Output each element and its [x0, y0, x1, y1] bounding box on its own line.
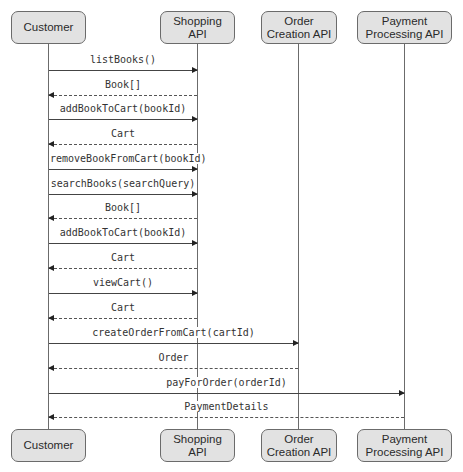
arrow-right-icon: [192, 240, 198, 246]
message-line: [49, 194, 197, 195]
message-label: Cart: [110, 302, 136, 313]
lifeline-payment: [404, 44, 405, 429]
message-line: [49, 393, 404, 394]
message-label: createOrderFromCart(cartId): [91, 327, 256, 338]
message-label: payForOrder(orderId): [165, 377, 287, 388]
arrow-left-icon: [48, 215, 54, 221]
message-line: [49, 368, 298, 369]
lifeline-shopping: [197, 44, 198, 429]
arrow-left-icon: [48, 141, 54, 147]
message-line: [49, 268, 197, 269]
arrow-left-icon: [48, 265, 54, 271]
message-line: [49, 343, 298, 344]
message-label: removeBookFromCart(bookId): [49, 153, 208, 164]
arrow-right-icon: [293, 340, 299, 346]
participant-shopping-top: Shopping API: [160, 11, 235, 44]
participant-shopping-bottom: Shopping API: [160, 429, 235, 462]
arrow-right-icon: [192, 191, 198, 197]
participant-order-bottom: Order Creation API: [261, 429, 337, 462]
lifeline-order: [298, 44, 299, 429]
message-line: [49, 293, 197, 294]
message-label: Book[]: [104, 202, 142, 213]
message-label: PaymentDetails: [183, 401, 269, 412]
participant-customer-bottom: Customer: [11, 429, 86, 462]
message-line: [49, 318, 197, 319]
arrow-left-icon: [48, 315, 54, 321]
participant-payment-top: Payment Processing API: [357, 11, 452, 44]
message-line: [49, 95, 197, 96]
arrow-right-icon: [192, 290, 198, 296]
message-line: [49, 169, 197, 170]
message-line: [49, 119, 197, 120]
message-label: Book[]: [104, 79, 142, 90]
arrow-right-icon: [192, 116, 198, 122]
message-label: Cart: [110, 128, 136, 139]
arrow-right-icon: [192, 67, 198, 73]
message-label: searchBooks(searchQuery): [50, 178, 197, 189]
message-line: [49, 70, 197, 71]
participant-payment-bottom: Payment Processing API: [357, 429, 452, 462]
message-label: listBooks(): [89, 54, 157, 65]
message-line: [49, 417, 404, 418]
sequence-diagram: CustomerCustomerShopping APIShopping API…: [0, 0, 463, 472]
arrow-left-icon: [48, 414, 54, 420]
arrow-left-icon: [48, 92, 54, 98]
message-label: Order: [157, 352, 189, 363]
message-line: [49, 144, 197, 145]
message-label: addBookToCart(bookId): [59, 103, 187, 114]
participant-order-top: Order Creation API: [261, 11, 337, 44]
arrow-right-icon: [192, 166, 198, 172]
message-label: viewCart(): [92, 277, 154, 288]
arrow-left-icon: [48, 365, 54, 371]
arrow-right-icon: [399, 390, 405, 396]
message-label: Cart: [110, 252, 136, 263]
message-line: [49, 218, 197, 219]
message-label: addBookToCart(bookId): [59, 227, 187, 238]
message-line: [49, 243, 197, 244]
participant-customer-top: Customer: [11, 11, 86, 44]
